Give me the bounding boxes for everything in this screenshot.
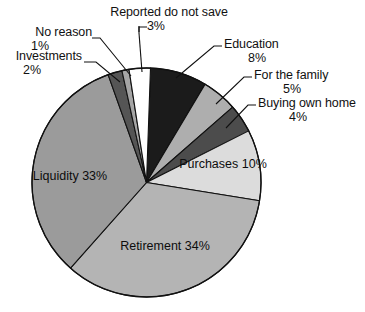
label-retirement-name: Retirement [120,239,181,253]
label-reported-do-not-save-value: 3% [147,20,165,34]
label-investments-name: Investments [0,50,82,64]
label-buying-own-home: Buying own home 4% [258,97,364,124]
label-reported-do-not-save-name: Reported do not save [96,6,242,20]
label-investments: Investments 2% [0,50,82,77]
label-liquidity-value: 33% [82,169,107,183]
label-investments-value: 2% [0,64,82,78]
label-for-the-family-value: 5% [254,83,358,97]
label-buying-own-home-name: Buying own home [258,97,364,111]
label-for-the-family-name: For the family [254,69,358,83]
label-for-the-family: For the family 5% [254,69,358,96]
label-liquidity: Liquidity 33% [28,170,112,184]
label-education-name: Education [224,38,314,52]
label-buying-own-home-value: 4% [258,111,364,125]
label-education: Education 8% [224,38,314,65]
leader-line-education [176,46,222,78]
leader-line-reported-corner [139,27,147,33]
label-retirement: Retirement 34% [115,240,215,254]
label-liquidity-name: Liquidity [33,169,79,183]
label-retirement-value: 34% [185,239,210,253]
label-reported-do-not-save: Reported do not save [96,6,242,20]
label-purchases: Purchases 10% [175,158,271,172]
label-purchases-value: 10% [242,157,267,171]
label-reported-do-not-save-value-wrap: 3% [147,20,165,34]
label-no-reason-name: No reason [4,26,92,40]
leader-line-reported-do-not-save [139,33,142,72]
label-purchases-name: Purchases [179,157,238,171]
label-education-value: 8% [224,52,314,66]
pie-chart-figure: No reason 1% Investments 2% Reported do … [0,0,365,312]
